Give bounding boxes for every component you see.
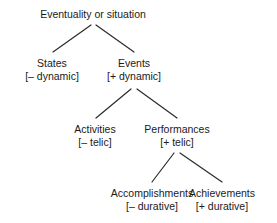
node-activities: Activities [– telic] xyxy=(74,123,115,149)
edge-events-performances xyxy=(137,89,177,118)
edge-root-states xyxy=(53,25,91,52)
node-achievements: Achievements [+ durative] xyxy=(189,187,255,213)
edge-root-events xyxy=(96,25,134,52)
node-performances: Performances [+ telic] xyxy=(144,123,209,149)
node-events-feature: [+ dynamic] xyxy=(107,70,161,83)
edge-performances-achievements xyxy=(180,153,222,182)
node-activities-feature: [– telic] xyxy=(74,136,115,149)
edge-events-activities xyxy=(96,89,131,118)
edge-performances-accomplishments xyxy=(152,153,174,182)
node-root-label: Eventuality or situation xyxy=(40,8,146,21)
node-states: States [– dynamic] xyxy=(25,57,79,83)
node-accomplishments-label: Accomplishments xyxy=(111,187,193,200)
node-activities-label: Activities xyxy=(74,123,115,136)
node-root: Eventuality or situation xyxy=(40,8,146,21)
node-events-label: Events xyxy=(107,57,161,70)
node-accomplishments-feature: [– durative] xyxy=(111,200,193,213)
node-achievements-feature: [+ durative] xyxy=(189,200,255,213)
tree-diagram: Eventuality or situation States [– dynam… xyxy=(0,0,277,223)
node-states-feature: [– dynamic] xyxy=(25,70,79,83)
node-achievements-label: Achievements xyxy=(189,187,255,200)
node-accomplishments: Accomplishments [– durative] xyxy=(111,187,193,213)
node-events: Events [+ dynamic] xyxy=(107,57,161,83)
node-performances-label: Performances xyxy=(144,123,209,136)
node-performances-feature: [+ telic] xyxy=(144,136,209,149)
node-states-label: States xyxy=(25,57,79,70)
